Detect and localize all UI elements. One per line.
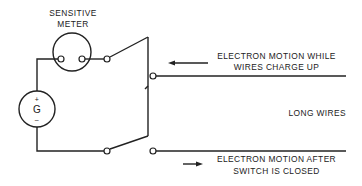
lower-wire-terminal [150,148,156,154]
long-wires-label: LONG WIRES [270,109,346,117]
arrow-left-icon [168,61,208,66]
switch-arm-lower [110,136,148,149]
wire-g-to-meter [37,59,58,91]
meter-terminal-left [58,56,64,62]
switch-arm-upper [110,37,148,57]
lower-label-line2: SWITCH IS CLOSED [205,167,348,175]
meter-terminal-right [79,56,85,62]
upper-label-line2: WIRES CHARGE UP [205,63,348,71]
circuit-diagram: SENSITIVE METER + G – ELECTRON MOTION WH… [0,0,362,186]
switch-terminal-upper-left [104,56,110,62]
meter-label-line2: METER [48,20,98,28]
sensitive-meter-symbol [53,33,91,71]
arrow-right-icon [183,162,203,167]
switch-terminal-lower-left [104,148,110,154]
upper-label-line1: ELECTRON MOTION WHILE [205,52,348,60]
upper-wire-terminal [150,73,156,79]
galvanometer-minus: – [32,116,42,123]
lower-label-line1: ELECTRON MOTION AFTER [205,155,348,163]
wire-g-to-switch [37,127,104,151]
galvanometer-plus: + [32,96,42,103]
meter-label-line1: SENSITIVE [48,9,98,17]
galvanometer-label: G [30,105,44,115]
